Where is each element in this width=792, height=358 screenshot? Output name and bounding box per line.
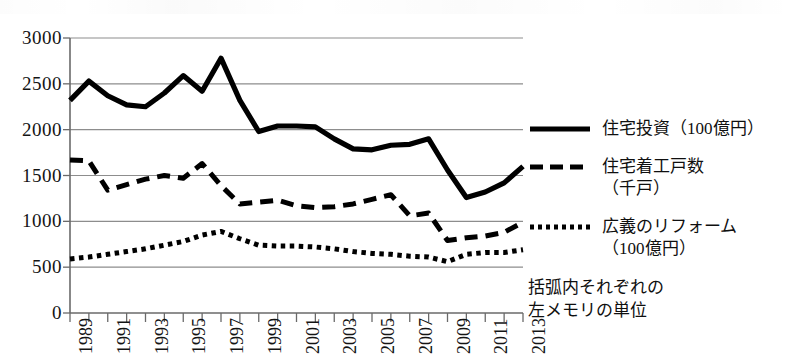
legend-item-label: 広義のリフォーム （100億円） (602, 216, 792, 260)
y-axis-tick-label: 1500 (2, 166, 62, 185)
legend-swatch-dotted (528, 216, 592, 238)
legend-swatch-dashed (528, 156, 592, 178)
series-line-2 (70, 160, 523, 241)
y-axis-tick-label: 2500 (2, 74, 62, 93)
legend-item: 住宅着工戸数 （千戸） (528, 156, 792, 200)
legend-note: 括弧内それぞれの 左メモリの単位 (528, 276, 792, 322)
y-axis-tick-label: 1000 (2, 211, 62, 230)
chart-legend: 住宅投資（100億円） 住宅着工戸数 （千戸） 広義のリフォーム （100億円）… (528, 118, 792, 322)
y-axis-tick-label: 3000 (2, 28, 62, 47)
series-line-1 (70, 58, 523, 197)
legend-item-label: 住宅投資（100億円） (602, 118, 792, 140)
legend-swatch-solid (528, 118, 592, 140)
y-axis-tick-labels: 050010001500200025003000 (0, 0, 62, 358)
y-axis-tick-label: 2000 (2, 120, 62, 139)
legend-item-label: 住宅着工戸数 （千戸） (602, 156, 792, 200)
chart-container: 050010001500200025003000 198919911993199… (0, 0, 792, 358)
y-axis-tick-label: 500 (2, 257, 62, 276)
series-line-3 (70, 231, 523, 261)
legend-item: 広義のリフォーム （100億円） (528, 216, 792, 260)
y-axis-tick-label: 0 (2, 303, 62, 322)
legend-item: 住宅投資（100億円） (528, 118, 792, 140)
